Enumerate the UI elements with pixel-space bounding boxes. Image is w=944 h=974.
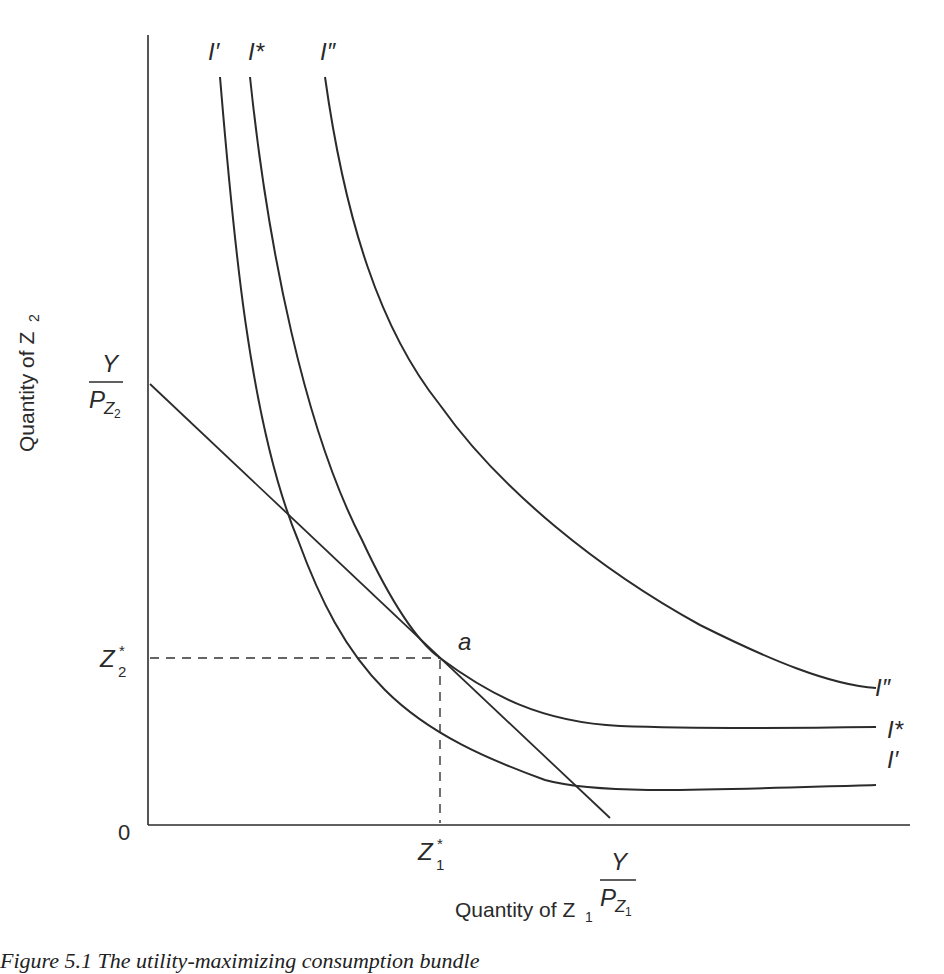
budget-line (150, 384, 610, 818)
curve-labels-top: I′ I* I″ (208, 38, 337, 65)
z2-star-base: Z (99, 645, 116, 672)
z1-star-sub: 1 (436, 856, 444, 873)
label-i-double-prime-right: I″ (875, 674, 892, 701)
y-intercept-label: Y P Z 2 (89, 350, 123, 421)
z2-star-label: Z * 2 (99, 642, 126, 680)
x-axis-title-sub: 1 (585, 909, 593, 925)
optimum-point-label: a (458, 628, 471, 655)
y-axis-title: Quantity of Z 2 (15, 314, 42, 452)
axes (148, 35, 910, 825)
y-intercept-numerator: Y (102, 350, 120, 377)
label-i-prime-top: I′ (208, 38, 221, 65)
x-intercept-den-subsub: 1 (625, 905, 632, 919)
z1-star-sup: * (437, 835, 443, 852)
origin-label: 0 (118, 820, 130, 845)
z2-star-sup: * (119, 642, 125, 659)
curve-i-double-prime (325, 77, 876, 688)
y-axis-title-sub: 2 (26, 314, 42, 322)
optimum-guides (150, 658, 440, 823)
label-i-double-prime-top: I″ (320, 38, 337, 65)
indifference-curves (220, 77, 876, 790)
y-intercept-den-subsub: 2 (114, 407, 121, 421)
x-axis-title-text: Quantity of Z (455, 898, 575, 921)
label-i-prime-right: I′ (887, 746, 900, 773)
x-intercept-label: Y P Z 1 (600, 848, 636, 919)
curve-labels-right: I″ I* I′ (875, 674, 904, 773)
figure-caption: Figure 5.1 The utility-maximizing consum… (0, 948, 944, 974)
y-axis-title-text: Quantity of Z (15, 332, 38, 452)
z1-star-label: Z * 1 (417, 835, 444, 873)
z1-star-base: Z (417, 838, 434, 865)
curve-i-star (250, 77, 876, 728)
x-intercept-denominator: P (600, 884, 616, 911)
x-intercept-numerator: Y (611, 848, 629, 875)
label-i-star-top: I* (248, 38, 265, 65)
label-i-star-right: I* (887, 716, 904, 743)
y-intercept-denominator: P (89, 386, 105, 413)
x-axis-title: Quantity of Z 1 (455, 898, 593, 925)
z2-star-sub: 2 (118, 663, 126, 680)
